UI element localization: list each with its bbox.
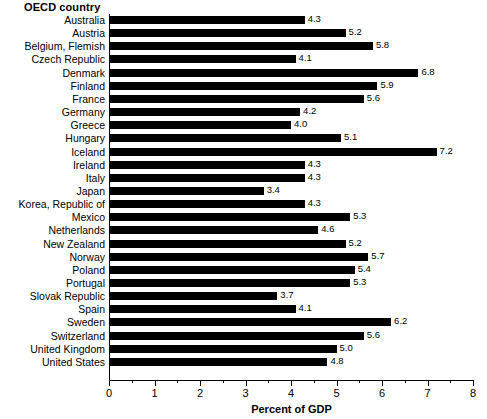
bar: [109, 253, 368, 261]
bar: [109, 134, 341, 142]
x-tick-minor: [359, 380, 360, 383]
category-label: Australia: [0, 14, 105, 27]
x-tick-label: 6: [379, 387, 385, 399]
bar-row: 5.4: [109, 264, 473, 277]
bar-row: 4.3: [109, 198, 473, 211]
bar: [109, 187, 264, 195]
bar: [109, 82, 377, 90]
bar-row: 5.3: [109, 211, 473, 224]
x-tick-major: [291, 380, 292, 386]
x-tick-label: 1: [151, 387, 157, 399]
bar: [109, 69, 418, 77]
bar-row: 5.9: [109, 80, 473, 93]
bar: [109, 279, 350, 287]
bar-row: 7.2: [109, 146, 473, 159]
x-tick-major: [428, 380, 429, 386]
category-label: United Kingdom: [0, 343, 105, 356]
bar-value-label: 4.0: [291, 117, 307, 130]
x-tick-label: 3: [242, 387, 248, 399]
category-label: Ireland: [0, 159, 105, 172]
bar: [109, 213, 350, 221]
bar: [109, 121, 291, 129]
bar-row: 4.6: [109, 224, 473, 237]
category-label: Iceland: [0, 146, 105, 159]
bar-row: 3.4: [109, 185, 473, 198]
bar: [109, 16, 305, 24]
bar-row: 5.8: [109, 40, 473, 53]
bar-value-label: 4.3: [305, 12, 321, 25]
bar-row: 5.7: [109, 251, 473, 264]
x-tick-major: [337, 380, 338, 386]
bar: [109, 266, 355, 274]
bar-value-label: 4.2: [300, 104, 316, 117]
bar-value-label: 6.2: [391, 314, 407, 327]
plot-area: 4.35.25.84.16.85.95.64.24.05.17.24.34.33…: [109, 14, 473, 380]
category-axis-labels: AustraliaAustriaBelgium, FlemishCzech Re…: [0, 14, 105, 380]
bar-value-label: 4.1: [296, 301, 312, 314]
bar-value-label: 4.1: [296, 51, 312, 64]
category-label: Switzerland: [0, 330, 105, 343]
category-label: Spain: [0, 303, 105, 316]
bar: [109, 358, 327, 366]
x-tick-major: [109, 380, 110, 386]
bar: [109, 318, 391, 326]
x-axis-title: Percent of GDP: [109, 403, 474, 415]
bar-value-label: 4.3: [305, 196, 321, 209]
category-label: New Zealand: [0, 238, 105, 251]
category-label: Norway: [0, 251, 105, 264]
bar-chart: OECD country AustraliaAustriaBelgium, Fl…: [0, 0, 487, 419]
bar-value-label: 5.3: [350, 209, 366, 222]
x-tick-major: [473, 380, 474, 386]
bar-value-label: 5.7: [368, 249, 384, 262]
bar-value-label: 3.7: [277, 288, 293, 301]
x-tick-minor: [132, 380, 133, 383]
x-tick-minor: [450, 380, 451, 383]
category-label: Poland: [0, 264, 105, 277]
category-label: Sweden: [0, 316, 105, 329]
bar-row: 5.2: [109, 27, 473, 40]
bar-row: 3.7: [109, 290, 473, 303]
x-tick-label: 5: [333, 387, 339, 399]
bar-value-label: 4.8: [327, 354, 343, 367]
category-label: Greece: [0, 119, 105, 132]
bar-value-label: 4.6: [318, 222, 334, 235]
bar: [109, 148, 437, 156]
bar-row: 5.6: [109, 330, 473, 343]
x-tick-minor: [177, 380, 178, 383]
y-axis-title: OECD country: [24, 1, 100, 13]
bar-value-label: 5.2: [346, 25, 362, 38]
bar: [109, 226, 318, 234]
bar-row: 4.0: [109, 119, 473, 132]
bar-row: 5.2: [109, 238, 473, 251]
bar-value-label: 5.1: [341, 130, 357, 143]
x-tick-major: [200, 380, 201, 386]
bar: [109, 240, 346, 248]
x-tick-major: [246, 380, 247, 386]
bar-value-label: 5.6: [364, 91, 380, 104]
category-label: United States: [0, 356, 105, 369]
bar-row: 4.3: [109, 159, 473, 172]
x-tick-label: 8: [470, 387, 476, 399]
category-label: France: [0, 93, 105, 106]
bar: [109, 95, 364, 103]
bar-value-label: 4.3: [305, 170, 321, 183]
bar-value-label: 5.0: [337, 341, 353, 354]
bar-row: 4.8: [109, 356, 473, 369]
category-label: Japan: [0, 185, 105, 198]
bar: [109, 305, 296, 313]
category-label: Hungary: [0, 132, 105, 145]
bar-row: 4.3: [109, 172, 473, 185]
bar-row: 4.3: [109, 14, 473, 27]
bar-value-label: 4.3: [305, 157, 321, 170]
category-label: Korea, Republic of: [0, 198, 105, 211]
bar: [109, 292, 277, 300]
x-tick-major: [382, 380, 383, 386]
x-tick-minor: [314, 380, 315, 383]
x-tick-label: 7: [424, 387, 430, 399]
bar-row: 4.1: [109, 303, 473, 316]
bar-value-label: 5.2: [346, 236, 362, 249]
bar: [109, 161, 305, 169]
bar: [109, 42, 373, 50]
category-label: Finland: [0, 80, 105, 93]
bar-value-label: 6.8: [418, 65, 434, 78]
